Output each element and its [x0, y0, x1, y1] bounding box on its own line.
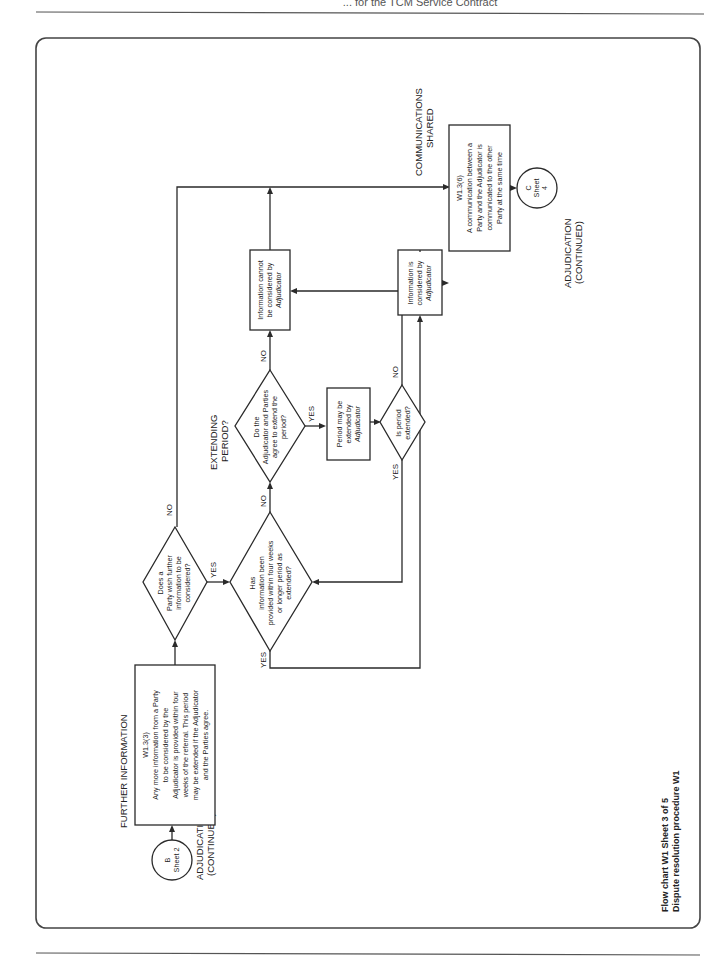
decision-is-extended: Is period extended? — [380, 385, 425, 460]
box-info-cannot: Information cannot be considered by Adju… — [250, 250, 290, 330]
arrowhead — [267, 187, 273, 194]
box-w133: W1.3(3) Any more information from a Part… — [135, 665, 215, 825]
branch-yes-label: YES — [391, 464, 400, 480]
label-line: COMMUNICATIONS — [413, 88, 424, 176]
connector-b: B Sheet 2 — [152, 840, 192, 880]
box-w136-line: Party at the same time — [495, 152, 504, 224]
caption-line-1: Flow chart W1 Sheet 3 of 5 — [660, 798, 670, 912]
branch-no-label: NO — [165, 504, 174, 516]
decision-text: Is period — [394, 409, 403, 437]
section-further-information: FURTHER INFORMATION — [118, 714, 129, 828]
box-w136-line: A communication between a — [465, 143, 474, 233]
box-text: Adjudicator — [353, 405, 362, 443]
section-extending-period: EXTENDING PERIOD? — [208, 415, 230, 470]
label-line: EXTENDING — [208, 415, 219, 470]
box-text: be considered by — [265, 262, 274, 317]
connector-b-letter: B — [163, 857, 172, 862]
header-rule — [36, 12, 704, 14]
edge-is-extended-yes — [318, 460, 402, 582]
end-adjudication-label: ADJUDICATION (CONTINUED) — [562, 218, 584, 288]
box-w136-line: communicated to the other — [485, 145, 494, 231]
flowchart-page: ... for the TCM Service Contract Flow ch… — [0, 0, 717, 972]
decision-text: agree to extend the — [270, 396, 279, 458]
decision-text: considered? — [183, 563, 192, 602]
decision-text: provided within four weeks — [266, 540, 275, 625]
decision-text: Do the — [252, 416, 261, 437]
box-text: Period may be — [335, 401, 344, 447]
box-text: extended by — [344, 404, 353, 444]
label-line: ADJUDICATION — [562, 218, 573, 288]
arrowhead — [312, 579, 319, 585]
box-text: Information cannot — [256, 260, 265, 320]
decision-text: Has — [248, 576, 257, 589]
decision-text: extended? — [403, 406, 412, 440]
branch-no-label: NO — [259, 350, 268, 362]
arrowhead — [169, 825, 175, 832]
decision-text: or longer period as — [275, 553, 284, 613]
branch-no-label: NO — [259, 495, 268, 507]
arrowhead — [319, 423, 326, 429]
caption-line-2: Dispute resolution procedure W1 — [671, 770, 681, 912]
box-w133-line: to be considered by the — [161, 708, 170, 783]
decision-text: information to be — [174, 556, 183, 610]
label-line: (CONTINUED) — [573, 221, 584, 284]
arrowhead — [267, 330, 273, 337]
box-w133-line: Any more information from a Party — [151, 690, 160, 800]
arrowhead — [223, 579, 230, 585]
box-w133-line: Adjudicator is provided within four — [171, 691, 180, 799]
branch-yes-label: YES — [259, 652, 268, 668]
decision-text: Adjudicator and Parties — [261, 389, 270, 464]
branch-no-label: NO — [391, 366, 400, 378]
connector-b-sheet: Sheet 2 — [172, 848, 181, 873]
box-w133-ref: W1.3(3) — [141, 732, 150, 758]
box-w136-ref: W1.3(6) — [455, 175, 464, 201]
arrowhead — [510, 185, 517, 191]
box-text: Adjudicator — [274, 271, 283, 309]
decision-party-wish: Does a Party wish further information to… — [143, 527, 207, 640]
decision-text: extended? — [284, 566, 293, 600]
branch-yes-label: YES — [307, 406, 316, 422]
section-communications-shared: COMMUNICATIONS SHARED — [413, 88, 435, 176]
figure-caption: Flow chart W1 Sheet 3 of 5 Dispute resol… — [660, 770, 681, 912]
edge-is-extended-no — [296, 291, 402, 385]
decision-text: information been — [257, 556, 266, 610]
label-line: PERIOD? — [219, 420, 230, 462]
box-text: considered by — [415, 260, 424, 305]
box-w133-line: weeks of the referral. This period — [181, 693, 190, 799]
box-info-is: Information is considered by Adjudicator — [398, 250, 442, 315]
arrowhead — [290, 288, 297, 294]
label-line: SHARED — [424, 108, 435, 148]
branch-yes-label: YES — [209, 562, 218, 578]
page-header: ... for the TCM Service Contract — [343, 0, 497, 8]
connector-c-sheet-num: 4 — [540, 186, 549, 190]
decision-text: period? — [279, 415, 288, 439]
edge-party-wish-no — [177, 187, 444, 527]
box-w133-line: and the Parties agree. — [201, 710, 210, 781]
box-w136-line: Party and the Adjudicator is — [475, 144, 484, 232]
footer-rule — [36, 953, 700, 955]
decision-info-provided: Has information been provided within fou… — [230, 512, 312, 651]
box-w133-line: may be extended if the Adjudicator — [191, 689, 200, 800]
decision-agree-extend: Do the Adjudicator and Parties agree to … — [235, 370, 305, 482]
box-w136: W1.3(6) A communication between a Party … — [449, 125, 510, 251]
decision-text: Party wish further — [165, 554, 174, 611]
box-period-extended: Period may be extended by Adjudicator — [327, 388, 370, 460]
box-text: Information is — [406, 261, 415, 305]
box-text: Adjudicator — [424, 264, 433, 302]
decision-text: Does a — [156, 572, 165, 595]
arrowhead — [417, 315, 423, 322]
connector-c: C Sheet 4 — [517, 168, 557, 208]
